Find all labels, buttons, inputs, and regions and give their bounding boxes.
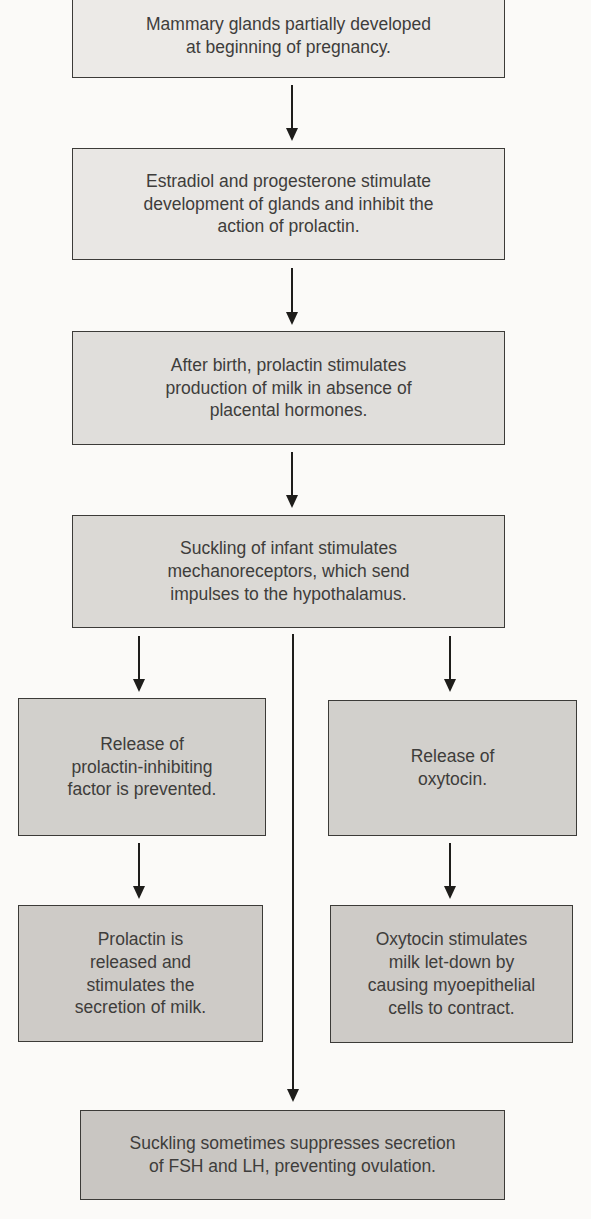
arrow-stem xyxy=(291,85,293,128)
down-arrow-icon xyxy=(133,843,145,899)
arrow-head-icon xyxy=(287,1089,299,1102)
flowchart-box-text: Release of prolactin-inhibiting factor i… xyxy=(58,731,227,804)
arrow-stem xyxy=(292,634,294,1089)
down-arrow-icon xyxy=(133,636,145,692)
flowchart-box-pif-prevented: Release of prolactin-inhibiting factor i… xyxy=(18,698,266,836)
down-arrow-icon xyxy=(286,268,298,325)
arrow-head-icon xyxy=(286,495,298,508)
arrow-head-icon xyxy=(133,886,145,899)
flowchart-box-estradiol-progesterone: Estradiol and progesterone stimulate dev… xyxy=(72,148,505,260)
arrow-head-icon xyxy=(133,679,145,692)
arrow-head-icon xyxy=(286,128,298,141)
flowchart-box-text: Oxytocin stimulates milk let-down by cau… xyxy=(358,926,545,1022)
flowchart-box-text: Prolactin is released and stimulates the… xyxy=(65,926,216,1022)
arrow-head-icon xyxy=(444,679,456,692)
flowchart-box-mammary-glands: Mammary glands partially developed at be… xyxy=(72,0,505,78)
arrow-head-icon xyxy=(444,886,456,899)
flowchart-box-prolactin-released: Prolactin is released and stimulates the… xyxy=(18,905,263,1042)
arrow-head-icon xyxy=(286,312,298,325)
down-arrow-icon xyxy=(287,634,299,1102)
flowchart-box-oxytocin-release: Release of oxytocin. xyxy=(328,700,577,836)
flowchart-box-fsh-lh-suppression: Suckling sometimes suppresses secretion … xyxy=(80,1110,505,1200)
arrow-stem xyxy=(138,843,140,886)
arrow-stem xyxy=(138,636,140,679)
lactation-flowchart: Mammary glands partially developed at be… xyxy=(0,0,591,1219)
down-arrow-icon xyxy=(286,452,298,508)
arrow-stem xyxy=(291,452,293,495)
down-arrow-icon xyxy=(444,636,456,692)
flowchart-box-oxytocin-letdown: Oxytocin stimulates milk let-down by cau… xyxy=(330,905,573,1043)
down-arrow-icon xyxy=(444,843,456,899)
flowchart-box-text: Suckling of infant stimulates mechanorec… xyxy=(157,535,419,608)
flowchart-box-text: After birth, prolactin stimulates produc… xyxy=(155,352,421,425)
flowchart-box-after-birth-prolactin: After birth, prolactin stimulates produc… xyxy=(72,331,505,445)
arrow-stem xyxy=(291,268,293,312)
down-arrow-icon xyxy=(286,85,298,141)
flowchart-box-suckling-mechanoreceptors: Suckling of infant stimulates mechanorec… xyxy=(72,515,505,628)
flowchart-box-text: Suckling sometimes suppresses secretion … xyxy=(120,1130,466,1180)
arrow-stem xyxy=(449,843,451,886)
flowchart-box-text: Mammary glands partially developed at be… xyxy=(136,11,441,61)
flowchart-box-text: Release of oxytocin. xyxy=(401,743,505,793)
arrow-stem xyxy=(449,636,451,679)
flowchart-box-text: Estradiol and progesterone stimulate dev… xyxy=(134,168,444,241)
